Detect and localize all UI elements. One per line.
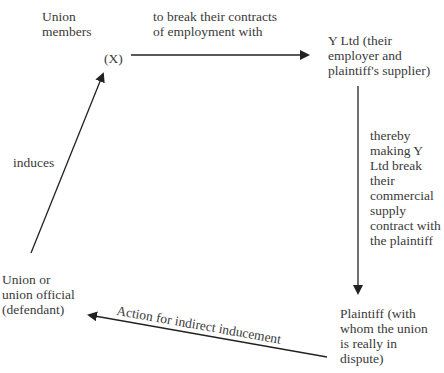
node-plaintiff: Plaintiff (with whom the union is really… [340,306,428,366]
node-y-ltd: Y Ltd (their employer and plaintiff's su… [328,33,430,78]
node-union-members: Union members [42,9,92,39]
node-defendant: Union or union official (defendant) [2,272,75,317]
label-defendant-to-x: induces [13,155,54,170]
label-y-to-plaintiff: thereby making Y Ltd break their commerc… [370,128,441,248]
diagram-canvas: Union members (X) to break their contrac… [0,0,444,373]
label-x-to-y: to break their contracts of employment w… [153,9,277,39]
node-x: (X) [104,51,123,66]
